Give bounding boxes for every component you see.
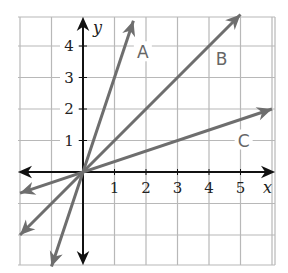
line-b bbox=[20, 15, 241, 236]
line-label-a: A bbox=[137, 42, 149, 62]
y-tick-label: 4 bbox=[64, 37, 74, 55]
x-tick-label: 2 bbox=[141, 179, 151, 197]
line-label-c: C bbox=[238, 131, 250, 151]
x-tick-label: 1 bbox=[110, 179, 120, 197]
y-axis-label: y bbox=[92, 18, 103, 37]
x-tick-label: 5 bbox=[236, 179, 246, 197]
y-tick-label: 3 bbox=[64, 69, 74, 87]
y-tick-label: 1 bbox=[64, 132, 74, 150]
coordinate-plane: 123451234xyABC bbox=[0, 0, 288, 273]
line-label-b: B bbox=[216, 49, 228, 69]
x-tick-label: 4 bbox=[204, 179, 214, 197]
y-tick-label: 2 bbox=[64, 100, 74, 118]
x-axis-label: x bbox=[263, 178, 272, 197]
x-tick-label: 3 bbox=[173, 179, 183, 197]
